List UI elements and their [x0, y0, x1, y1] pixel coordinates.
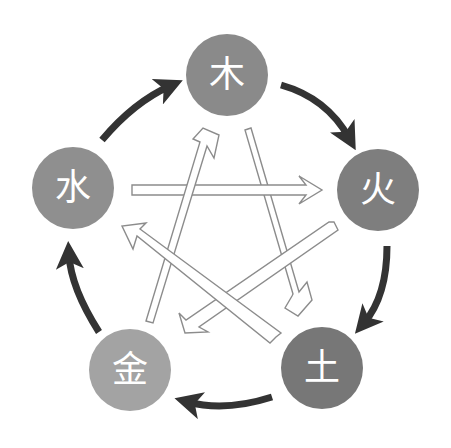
arrow-wood-to-fire [281, 85, 349, 138]
water-glyph: 水 [55, 170, 91, 206]
earth-glyph: 土 [304, 350, 340, 386]
arrow-metal-to-water [69, 255, 99, 332]
arrow-water-to-wood [102, 86, 170, 140]
overcoming-cycle [122, 128, 338, 343]
node-metal: 金 [89, 329, 171, 411]
node-wood: 木 [186, 34, 268, 116]
fire-glyph: 火 [360, 172, 396, 208]
metal-glyph: 金 [112, 352, 148, 388]
node-fire: 火 [337, 149, 419, 231]
node-earth: 土 [281, 327, 363, 409]
wood-glyph: 木 [209, 57, 245, 93]
node-water: 水 [32, 147, 114, 229]
arrow-earth-to-metal [188, 397, 272, 406]
arrow-water-to-fire [132, 176, 322, 204]
arrow-fire-to-earth [364, 246, 387, 323]
